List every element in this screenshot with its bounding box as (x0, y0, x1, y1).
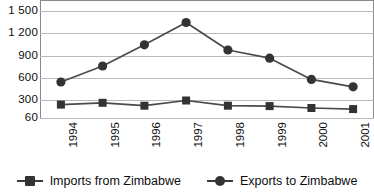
legend-item-exports[interactable]: Exports to Zimbabwe (207, 175, 357, 188)
data-point-square (224, 102, 232, 110)
y-axis-tick-label: 1 500 (2, 5, 38, 17)
plot-area (40, 0, 374, 119)
y-axis-tick-label: 1 200 (2, 27, 38, 39)
legend-item-label: Imports from Zimbabwe (50, 175, 181, 188)
data-point-circle (223, 45, 232, 54)
chart-legend: Imports from Zimbabwe Exports to Zimbabw… (0, 168, 374, 194)
data-point-square (140, 102, 148, 110)
y-axis-tick-label: 900 (2, 50, 38, 62)
data-point-square (349, 105, 357, 113)
line-chart: 1 5001 20090060030060 199419951996199719… (0, 0, 374, 194)
x-axis: 19941995199619971998199920002001 (40, 120, 374, 166)
data-point-square (57, 101, 65, 109)
y-axis: 1 5001 20090060030060 (0, 0, 38, 125)
data-point-circle (182, 18, 191, 27)
y-axis-tick-label: 60 (2, 112, 38, 124)
x-axis-tick-label: 1994 (67, 122, 79, 148)
data-point-square (182, 97, 190, 105)
data-point-circle (307, 75, 316, 84)
legend-item-imports[interactable]: Imports from Zimbabwe (17, 175, 181, 188)
x-axis-tick-label: 2001 (359, 122, 371, 148)
data-point-square (266, 102, 274, 110)
data-point-circle (349, 82, 358, 91)
data-point-circle (56, 77, 65, 86)
y-axis-tick-label: 300 (2, 94, 38, 106)
x-axis-tick-label: 1996 (150, 122, 162, 148)
data-point-circle (265, 54, 274, 63)
data-point-square (99, 99, 107, 107)
legend-item-label: Exports to Zimbabwe (240, 175, 357, 188)
data-point-circle (140, 40, 149, 49)
y-axis-tick-label: 600 (2, 72, 38, 84)
x-axis-tick-label: 1998 (234, 122, 246, 148)
x-axis-tick-label: 1995 (109, 122, 121, 148)
x-axis-tick-label: 1999 (276, 122, 288, 148)
x-axis-tick-label: 2000 (317, 122, 329, 148)
x-axis-tick-label: 1997 (192, 122, 204, 148)
data-point-square (307, 104, 315, 112)
legend-square-marker-icon (17, 175, 43, 187)
plot-svg (40, 0, 374, 119)
data-point-circle (98, 61, 107, 70)
legend-circle-marker-icon (207, 175, 233, 187)
